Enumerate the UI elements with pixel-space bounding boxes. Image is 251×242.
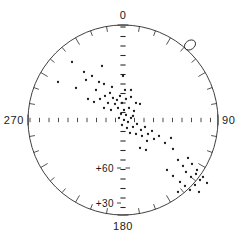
data-point	[93, 101, 95, 103]
data-point	[135, 133, 137, 135]
data-point	[121, 102, 123, 104]
south-label: 180	[113, 220, 133, 232]
data-point	[164, 142, 166, 144]
data-point	[144, 126, 146, 128]
data-point	[141, 135, 143, 137]
east-label: 90	[222, 114, 235, 126]
rim-tick	[29, 136, 34, 137]
data-point	[83, 71, 85, 73]
data-point	[101, 65, 103, 67]
rim-tick	[192, 59, 196, 63]
rim-tick	[34, 88, 39, 90]
data-point	[189, 189, 191, 191]
rim-tick	[198, 164, 205, 168]
data-point	[123, 109, 125, 111]
data-point	[112, 97, 114, 99]
data-point	[103, 107, 105, 109]
elevation-60-label: +60	[96, 163, 114, 174]
rim-tick	[198, 73, 205, 77]
data-point	[126, 127, 128, 129]
stereonet-svg: 090180270+60+30	[0, 0, 251, 242]
data-points	[57, 61, 208, 193]
rim-tick	[139, 26, 140, 31]
rim-tick	[29, 104, 34, 105]
rim-tick	[91, 31, 93, 36]
data-point	[172, 148, 174, 150]
rim-tick	[181, 47, 185, 51]
data-point	[104, 95, 106, 97]
data-point	[71, 61, 73, 63]
data-point	[119, 95, 121, 97]
data-point	[117, 107, 119, 109]
data-point	[179, 181, 181, 183]
data-point	[170, 137, 172, 139]
west-label: 270	[4, 114, 24, 126]
data-point	[110, 109, 112, 111]
data-point	[132, 115, 134, 117]
data-point	[172, 175, 174, 177]
data-point	[95, 89, 97, 91]
data-point	[127, 121, 129, 123]
rim-tick	[62, 47, 66, 51]
rim-tick	[154, 31, 156, 36]
rim-tick	[76, 195, 80, 202]
data-point	[190, 176, 192, 178]
rim-tick	[154, 204, 156, 209]
rim-tick	[107, 26, 108, 31]
rim-tick	[34, 151, 39, 153]
data-point	[123, 119, 125, 121]
rim-tick	[50, 178, 54, 182]
data-point	[177, 159, 179, 161]
data-point	[182, 165, 184, 167]
data-point	[166, 169, 168, 171]
data-point	[99, 98, 101, 100]
data-point	[177, 191, 179, 193]
data-point	[107, 102, 109, 104]
data-point	[198, 191, 200, 193]
data-point	[114, 103, 116, 105]
rim-tick	[107, 208, 108, 213]
stereonet-chart: 090180270+60+30	[0, 0, 251, 242]
data-point	[103, 83, 105, 85]
rim-tick	[167, 195, 171, 202]
data-point	[87, 98, 89, 100]
data-point	[151, 130, 153, 132]
data-point	[130, 96, 132, 98]
data-point	[199, 179, 201, 181]
data-point	[128, 107, 130, 109]
rim-tick	[139, 208, 140, 213]
data-point	[206, 182, 208, 184]
data-point	[75, 87, 77, 89]
rim-tick	[207, 151, 212, 153]
data-point	[146, 140, 148, 142]
rim-tick	[50, 59, 54, 63]
rim-tick	[211, 136, 216, 137]
data-point	[124, 89, 126, 91]
rim-tick	[41, 164, 48, 168]
data-point	[130, 89, 132, 91]
data-point	[125, 98, 127, 100]
data-point	[125, 114, 127, 116]
elevation-30-label: +30	[96, 198, 114, 209]
rim-tick	[211, 104, 216, 105]
data-point	[121, 124, 123, 126]
data-point	[130, 117, 132, 119]
data-point	[139, 103, 141, 105]
data-point	[98, 81, 100, 83]
north-label: 0	[120, 9, 127, 21]
data-point	[139, 147, 141, 149]
data-point	[122, 75, 124, 77]
rim-tick	[192, 178, 196, 182]
data-point	[136, 123, 138, 125]
data-point	[195, 173, 197, 175]
rim-tick	[62, 189, 66, 193]
data-point	[129, 132, 131, 134]
data-point	[132, 126, 134, 128]
data-point	[133, 110, 135, 112]
data-point	[109, 92, 111, 94]
data-point	[185, 171, 187, 173]
data-point	[145, 149, 147, 151]
data-point	[191, 163, 193, 165]
data-point	[202, 176, 204, 178]
data-point	[147, 133, 149, 135]
